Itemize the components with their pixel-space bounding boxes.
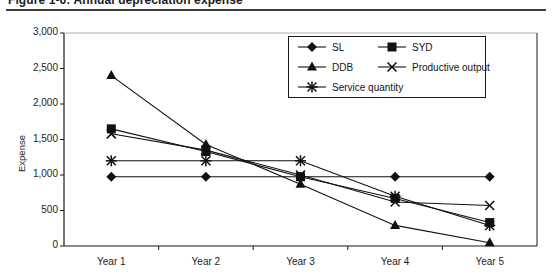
legend-marker-triangle-icon xyxy=(297,61,327,73)
x-tick-label: Year 4 xyxy=(355,256,435,267)
y-tick-label: 500 xyxy=(6,205,58,215)
data-point-square xyxy=(388,43,397,52)
legend-marker-x-icon xyxy=(377,61,407,73)
data-point-asterisk xyxy=(307,82,318,93)
data-point-diamond xyxy=(485,172,495,182)
y-tick-label: 0 xyxy=(6,240,58,250)
y-tick-label: 2,500 xyxy=(6,63,58,73)
data-point-triangle xyxy=(106,70,116,79)
x-tick-label: Year 3 xyxy=(261,256,341,267)
x-tick-label: Year 1 xyxy=(71,256,151,267)
legend-marker-asterisk-icon xyxy=(297,81,327,93)
legend-label: Productive output xyxy=(412,62,490,73)
legend-item-service-quantity[interactable]: Service quantity xyxy=(297,81,403,93)
legend-label: DDB xyxy=(332,62,353,73)
data-point-diamond xyxy=(201,172,211,182)
data-point-diamond xyxy=(106,172,116,182)
x-tick-label: Year 2 xyxy=(166,256,246,267)
y-tick-label: 2,000 xyxy=(6,98,58,108)
data-point-square xyxy=(107,124,116,133)
legend-label: SL xyxy=(332,42,344,53)
data-point-diamond xyxy=(307,42,317,52)
legend-item-sl[interactable]: SL xyxy=(297,41,344,53)
y-tick-label: 3,000 xyxy=(6,27,58,37)
data-point-asterisk xyxy=(295,155,306,166)
data-point-asterisk xyxy=(200,155,211,166)
y-tick-label: 1,000 xyxy=(6,169,58,179)
series-line-productive-output xyxy=(111,134,489,206)
data-point-triangle xyxy=(307,62,317,71)
data-point-diamond xyxy=(390,172,400,182)
chart-legend: SLSYDDDBProductive outputService quantit… xyxy=(288,36,486,98)
x-tick-label: Year 5 xyxy=(450,256,530,267)
legend-item-ddb[interactable]: DDB xyxy=(297,61,353,73)
legend-item-syd[interactable]: SYD xyxy=(377,41,433,53)
legend-item-productive-output[interactable]: Productive output xyxy=(377,61,490,73)
data-point-asterisk xyxy=(106,155,117,166)
legend-marker-diamond-icon xyxy=(297,41,327,53)
legend-label: Service quantity xyxy=(332,82,403,93)
data-point-asterisk xyxy=(390,191,401,202)
data-point-asterisk xyxy=(484,220,495,231)
series-line-service-quantity xyxy=(111,161,489,226)
legend-label: SYD xyxy=(412,42,433,53)
legend-marker-square-icon xyxy=(377,41,407,53)
y-tick-label: 1,500 xyxy=(6,134,58,144)
data-point-square xyxy=(201,147,210,156)
